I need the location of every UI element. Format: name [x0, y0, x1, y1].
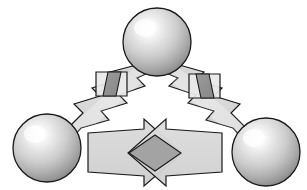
sphere-left-highlight	[24, 125, 46, 143]
barrier-marker-right	[189, 74, 220, 98]
sphere-top	[123, 8, 191, 76]
sphere-right-highlight	[243, 129, 265, 147]
sphere-right	[232, 118, 300, 186]
diagram-canvas	[0, 0, 307, 190]
sphere-top-highlight	[134, 19, 156, 37]
sphere-top-body	[123, 8, 191, 76]
sphere-left-body	[13, 114, 81, 182]
sphere-right-body	[232, 118, 300, 186]
barrier-marker-left	[96, 72, 127, 96]
double-headed-arrow-bottom	[88, 119, 222, 186]
diagram-svg	[0, 0, 307, 190]
sphere-left	[13, 114, 81, 182]
